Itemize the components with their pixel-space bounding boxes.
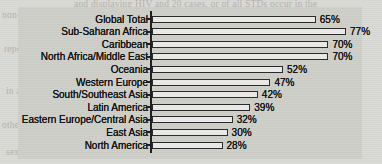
bar-value-label: 70%: [332, 39, 352, 50]
bar: [152, 116, 233, 123]
category-label: Sub-Saharan Africa: [0, 26, 148, 37]
bar: [152, 142, 223, 149]
category-label: Global Total: [0, 14, 148, 25]
axis-tick: [146, 81, 151, 83]
bar-value-label: 42%: [262, 89, 282, 100]
axis-tick: [146, 94, 151, 96]
category-label: Eastern Europe/Central Asia: [0, 114, 148, 125]
axis-tick: [146, 106, 151, 108]
axis-tick: [146, 31, 151, 33]
axis-tick: [146, 119, 151, 121]
bar-value-label: 30%: [232, 127, 252, 138]
category-label: Western Europe: [0, 77, 148, 88]
bar-value-label: 65%: [320, 14, 340, 25]
bar-value-label: 28%: [227, 140, 247, 151]
bar-row: North America28%: [0, 139, 382, 151]
axis-tick: [146, 18, 151, 20]
bar-and-value: 65%: [152, 13, 340, 25]
category-label: South/Southeast Asia: [0, 89, 148, 100]
bar-value-label: 52%: [287, 64, 307, 75]
category-label: East Asia: [0, 127, 148, 138]
bar-and-value: 70%: [152, 51, 352, 63]
bar-and-value: 39%: [152, 101, 274, 113]
bar: [152, 129, 228, 136]
bar-and-value: 77%: [152, 26, 370, 38]
bar-row: Western Europe47%: [0, 76, 382, 88]
category-label: North America: [0, 140, 148, 151]
bar: [152, 16, 316, 23]
category-label: Latin America: [0, 102, 148, 113]
bar: [152, 104, 250, 111]
bar-value-label: 39%: [254, 102, 274, 113]
bar-row: Caribbean70%: [0, 38, 382, 50]
bar-row: Sub-Saharan Africa77%: [0, 26, 382, 38]
scanned-page: and displaying HIV and 20 cases, or of a…: [0, 0, 382, 164]
horizontal-bar-chart: Global Total65%Sub-Saharan Africa77%Cari…: [0, 0, 382, 164]
bar-and-value: 28%: [152, 139, 247, 151]
axis-tick: [146, 68, 151, 70]
bar: [152, 41, 328, 48]
bar-row: Latin America39%: [0, 101, 382, 113]
bar-and-value: 52%: [152, 63, 307, 75]
axis-tick: [146, 131, 151, 133]
bar-row: Global Total65%: [0, 13, 382, 25]
bar: [152, 79, 270, 86]
bar-row: South/Southeast Asia42%: [0, 89, 382, 101]
axis-tick: [146, 56, 151, 58]
bar-row: Oceania52%: [0, 63, 382, 75]
bar-and-value: 47%: [152, 76, 294, 88]
bar-and-value: 42%: [152, 89, 282, 101]
bar-row: Eastern Europe/Central Asia32%: [0, 114, 382, 126]
bar-and-value: 30%: [152, 126, 252, 138]
category-label: Caribbean: [0, 39, 148, 50]
axis-tick: [146, 144, 151, 146]
bar-value-label: 70%: [332, 51, 352, 62]
axis-tick: [146, 43, 151, 45]
bar: [152, 28, 346, 35]
bar-row: East Asia30%: [0, 126, 382, 138]
bar-value-label: 32%: [237, 114, 257, 125]
bar-and-value: 32%: [152, 114, 257, 126]
bar: [152, 91, 258, 98]
bar: [152, 66, 283, 73]
bar-row: North Africa/Middle East70%: [0, 51, 382, 63]
bar-value-label: 77%: [350, 26, 370, 37]
bar: [152, 53, 328, 60]
bar-and-value: 70%: [152, 38, 352, 50]
category-label: Oceania: [0, 64, 148, 75]
category-label: North Africa/Middle East: [0, 51, 148, 62]
bar-value-label: 47%: [274, 77, 294, 88]
